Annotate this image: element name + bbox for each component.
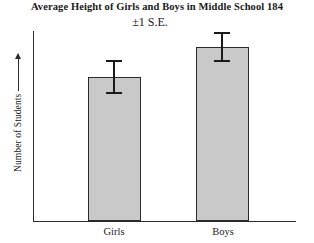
x-axis-line xyxy=(33,221,296,222)
chart-figure: Average Height of Girls and Boys in Midd… xyxy=(0,0,314,243)
error-bar-cap-bottom xyxy=(214,60,230,62)
y-axis-label-text: Number of Students xyxy=(13,94,23,172)
error-bar-cap-bottom xyxy=(106,92,122,94)
error-bar-whisker xyxy=(113,60,115,94)
x-axis-label-boys: Boys xyxy=(183,225,263,239)
bar-girls xyxy=(88,77,141,221)
bar-boys xyxy=(196,47,249,221)
error-bar-whisker xyxy=(221,32,223,62)
plot-area: Number of Students Girls Boys xyxy=(0,0,314,243)
up-arrow-icon xyxy=(18,54,19,91)
y-axis-label: Number of Students xyxy=(11,52,25,172)
error-bar-girls xyxy=(106,60,122,94)
y-axis-line xyxy=(33,31,34,221)
x-axis-label-girls: Girls xyxy=(74,225,154,239)
error-bar-boys xyxy=(214,32,230,62)
